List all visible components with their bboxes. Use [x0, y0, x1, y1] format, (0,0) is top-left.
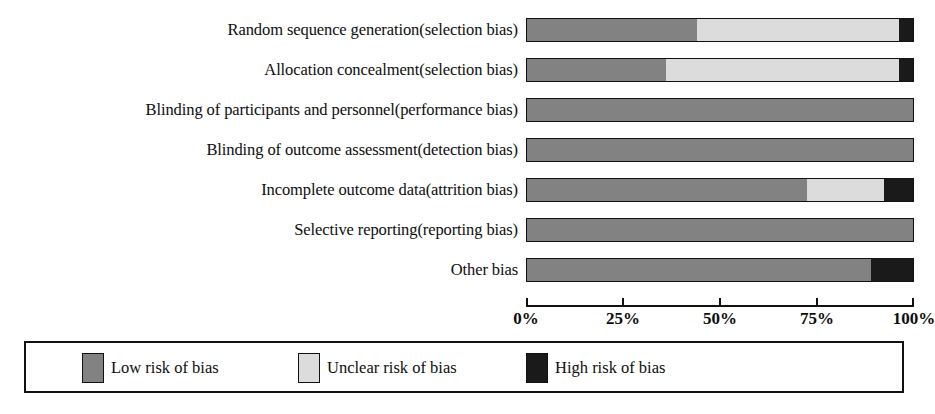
x-axis-tick-label: 50%	[703, 309, 737, 329]
legend-swatch	[298, 353, 320, 383]
chart-legend: Low risk of biasUnclear risk of biasHigh…	[24, 341, 904, 393]
bias-row: Other bias	[0, 254, 934, 294]
bias-row: Incomplete outcome data(attrition bias)	[0, 174, 934, 214]
bar-segment-low-risk	[527, 19, 697, 41]
bias-row: Random sequence generation(selection bia…	[0, 14, 934, 54]
x-axis-tick	[719, 298, 721, 307]
bar-segment-unclear-risk	[807, 179, 884, 201]
bar-segment-high-risk	[871, 259, 913, 281]
bar-segment-high-risk	[899, 19, 913, 41]
x-axis-tick	[912, 298, 914, 307]
x-axis-tick-label: 100%	[893, 309, 935, 329]
stacked-bar	[526, 258, 914, 282]
bar-segment-low-risk	[527, 99, 913, 121]
x-axis-tick-label: 75%	[800, 309, 834, 329]
bar-segment-unclear-risk	[697, 19, 900, 41]
bias-row: Blinding of participants and personnel(p…	[0, 94, 934, 134]
stacked-bar	[526, 98, 914, 122]
bias-row-label: Incomplete outcome data(attrition bias)	[18, 174, 518, 206]
bar-segment-low-risk	[527, 179, 807, 201]
stacked-bar	[526, 18, 914, 42]
bias-rows: Random sequence generation(selection bia…	[0, 14, 934, 294]
bar-segment-low-risk	[527, 219, 913, 241]
bias-row-label: Allocation concealment(selection bias)	[18, 54, 518, 86]
bar-segment-low-risk	[527, 259, 871, 281]
bias-row-label: Random sequence generation(selection bia…	[18, 14, 518, 46]
stacked-bar	[526, 218, 914, 242]
bias-row: Selective reporting(reporting bias)	[0, 214, 934, 254]
x-axis-tick	[816, 298, 818, 307]
legend-swatch	[82, 353, 104, 383]
x-axis: 0%25%50%75%100%	[526, 298, 914, 338]
bar-segment-low-risk	[527, 139, 913, 161]
stacked-bar	[526, 58, 914, 82]
legend-item: Unclear risk of bias	[298, 352, 457, 384]
legend-item: High risk of bias	[526, 352, 665, 384]
stacked-bar	[526, 138, 914, 162]
bias-row-label: Selective reporting(reporting bias)	[18, 214, 518, 246]
bias-row-label: Blinding of outcome assessment(detection…	[18, 134, 518, 166]
legend-label: High risk of bias	[555, 358, 665, 378]
x-axis-tick	[622, 298, 624, 307]
bar-segment-low-risk	[527, 59, 666, 81]
bias-row: Allocation concealment(selection bias)	[0, 54, 934, 94]
x-axis-tick-label: 0%	[513, 309, 539, 329]
bar-segment-high-risk	[899, 59, 913, 81]
bias-row-label: Other bias	[18, 254, 518, 286]
bar-segment-unclear-risk	[666, 59, 900, 81]
legend-label: Unclear risk of bias	[327, 358, 457, 378]
legend-swatch	[526, 353, 548, 383]
x-axis-tick	[526, 298, 528, 307]
stacked-bar	[526, 178, 914, 202]
x-axis-tick-label: 25%	[606, 309, 640, 329]
bar-segment-high-risk	[884, 179, 913, 201]
bias-row: Blinding of outcome assessment(detection…	[0, 134, 934, 174]
legend-label: Low risk of bias	[111, 358, 219, 378]
legend-item: Low risk of bias	[82, 352, 219, 384]
bias-row-label: Blinding of participants and personnel(p…	[18, 94, 518, 126]
